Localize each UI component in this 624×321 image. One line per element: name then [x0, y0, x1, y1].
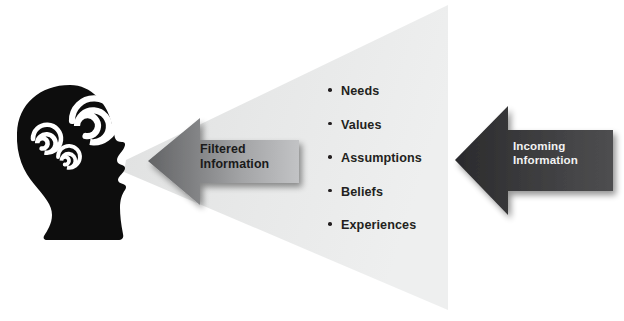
- filter-label: Experiences: [341, 218, 416, 232]
- list-item: Needs: [328, 80, 458, 114]
- head-silhouette: [17, 85, 126, 240]
- list-item: Experiences: [328, 214, 458, 248]
- bullet-icon: [328, 122, 332, 126]
- diagram-canvas: Needs Values Assumptions Beliefs Experie…: [0, 0, 624, 321]
- filter-list: Needs Values Assumptions Beliefs Experie…: [328, 80, 458, 248]
- filter-label: Beliefs: [341, 185, 383, 199]
- bullet-icon: [328, 189, 332, 193]
- list-item: Beliefs: [328, 181, 458, 215]
- filter-label: Needs: [341, 84, 379, 98]
- bullet-icon: [328, 155, 332, 159]
- bullet-icon: [328, 88, 332, 92]
- list-item: Assumptions: [328, 147, 458, 181]
- filter-label: Values: [341, 118, 382, 132]
- bullet-icon: [328, 222, 332, 226]
- filtered-information-label: Filtered Information: [200, 142, 269, 172]
- incoming-information-label: Incoming Information: [513, 139, 578, 167]
- filter-label: Assumptions: [341, 151, 422, 165]
- list-item: Values: [328, 114, 458, 148]
